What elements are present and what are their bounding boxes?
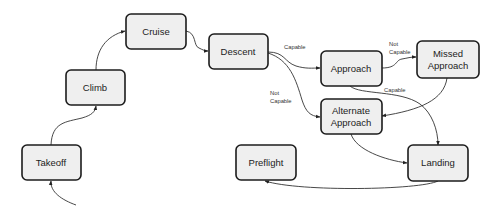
node-label: Cruise bbox=[142, 26, 169, 37]
edge-label-descent-approach: Capable bbox=[284, 44, 306, 50]
node-descent: Descent bbox=[209, 34, 268, 69]
edge-alternate-to-landing bbox=[351, 134, 407, 163]
edge-missed-to-alternate bbox=[382, 78, 447, 116]
edge-landing-to-preflight bbox=[265, 181, 438, 189]
edge-climb-to-cruise bbox=[96, 31, 125, 70]
edge-takeoff-to-climb bbox=[51, 106, 96, 145]
node-climb: Climb bbox=[66, 70, 125, 105]
edge-descent-to-approach bbox=[268, 52, 320, 68]
edge-label-descent-alternate-1: Not bbox=[270, 90, 279, 96]
node-label-line1: Missed bbox=[433, 48, 463, 59]
edge-start-to-takeoff bbox=[51, 181, 76, 205]
node-label: Takeoff bbox=[36, 157, 67, 168]
node-preflight: Preflight bbox=[236, 145, 296, 180]
node-approach: Approach bbox=[321, 51, 382, 86]
edge-label-approach-landing: Capable bbox=[384, 87, 406, 93]
node-takeoff: Takeoff bbox=[22, 145, 81, 180]
flight-phase-diagram: Capable Not Capable Not Capable Capable … bbox=[0, 0, 499, 210]
node-landing: Landing bbox=[408, 145, 468, 181]
edge-cruise-to-descent bbox=[186, 31, 208, 51]
node-label: Approach bbox=[331, 63, 372, 74]
node-label-line2: Approach bbox=[331, 117, 372, 128]
node-label: Descent bbox=[221, 46, 256, 57]
node-alternate-approach: Alternate Approach bbox=[321, 99, 382, 134]
node-label: Landing bbox=[421, 157, 455, 168]
edge-label-approach-missed-1: Not bbox=[389, 41, 398, 47]
edge-label-descent-alternate-2: Capable bbox=[270, 98, 292, 104]
node-label-line1: Alternate bbox=[332, 105, 370, 116]
edge-approach-to-missed bbox=[382, 57, 416, 68]
edge-label-approach-missed-2: Capable bbox=[389, 49, 411, 55]
edge-descent-to-alternate bbox=[268, 53, 320, 117]
node-label: Climb bbox=[83, 82, 107, 93]
node-cruise: Cruise bbox=[126, 14, 186, 49]
node-label-line2: Approach bbox=[428, 60, 469, 71]
node-missed-approach: Missed Approach bbox=[417, 41, 479, 78]
node-label: Preflight bbox=[249, 157, 284, 168]
